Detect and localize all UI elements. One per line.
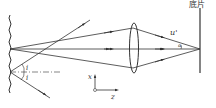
- u-prime-label: u': [170, 28, 177, 37]
- angle-i-upper: i: [26, 64, 28, 72]
- upper-ray: [10, 28, 133, 49]
- z-axis-label: z: [110, 93, 115, 101]
- film-label: 底片: [189, 0, 205, 9]
- angle-i-lower: i: [26, 74, 28, 82]
- coordinate-axes: x z: [88, 73, 117, 101]
- lower-ray: [10, 49, 133, 68]
- optical-diagram: i i 底片 u' α x z: [0, 0, 216, 108]
- rough-surface: [9, 15, 11, 93]
- convex-lens: [130, 23, 139, 73]
- x-axis-label: x: [88, 73, 92, 81]
